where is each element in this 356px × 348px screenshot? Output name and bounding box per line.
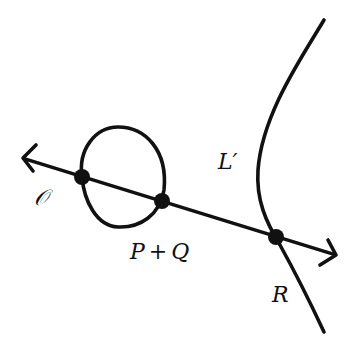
label-p-plus-q: P+Q [130,241,189,263]
label-r: R [272,284,289,306]
label-p: P [130,239,145,264]
point-origin [74,169,90,185]
label-plus: + [145,239,171,264]
curve-branch [258,20,324,332]
diagram-canvas: 𝒪 P+Q L′ R [0,0,356,348]
label-q: Q [171,239,189,264]
diagram-svg [0,0,356,348]
oval-component [81,127,164,227]
point-p-plus-q [154,193,170,209]
point-r [268,229,284,245]
left-arrowhead-icon [23,145,36,171]
label-curve-l-prime: L′ [218,151,238,173]
label-origin: 𝒪 [34,187,48,209]
